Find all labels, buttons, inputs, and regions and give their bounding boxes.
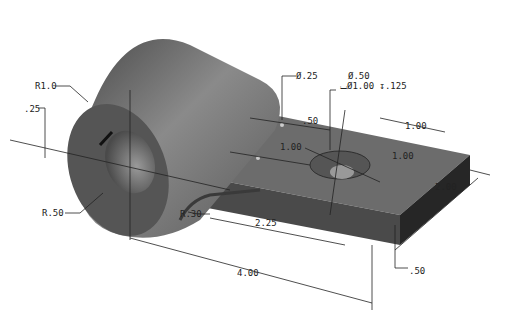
dim-cbore-spec: ⌴Ø1.00 ↧.125 <box>340 81 407 91</box>
dim-outer-radius: R1.0 <box>35 81 57 91</box>
dim-cbore-from-edge: 1.00 <box>392 151 414 161</box>
dim-fillet-radius: R.30 <box>180 209 202 219</box>
part-drawing: R1.0 .25 R.50 R.30 Ø.25 Ø.50 ⌴Ø1.00 ↧.12… <box>0 0 505 335</box>
counterbore-hole <box>310 151 370 179</box>
dim-small-hole-dia: Ø.25 <box>296 71 318 81</box>
dim-overall-length: 4.00 <box>237 268 259 278</box>
dim-center-to-hole: 2.25 <box>255 218 277 228</box>
dim-cbore-hole-dia: Ø.50 <box>348 71 370 81</box>
dim-cbore-from-end: 1.00 <box>405 121 427 131</box>
dim-hole-spacing-y: 1.00 <box>280 142 302 152</box>
dim-hole-spacing-x: .50 <box>302 116 318 126</box>
dim-thickness: .50 <box>409 266 425 276</box>
dim-bore-radius: R.50 <box>42 208 64 218</box>
cylinder-boss <box>50 39 280 250</box>
dim-slot-offset: .25 <box>24 104 40 114</box>
dim-width: 2.00 <box>435 182 457 192</box>
